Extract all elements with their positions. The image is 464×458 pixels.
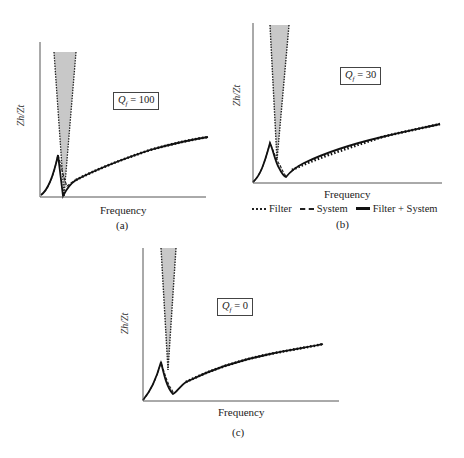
system-overlay [186,344,323,382]
filter-system-curve [143,344,323,400]
legend-item-system: System [300,203,348,214]
panel-b: Zh/Zt Qf = 30 Frequency Filter System Fi… [232,0,464,230]
legend: Filter System Filter + System [252,203,438,214]
system-overlay [292,124,440,170]
x-axis-label: Frequency [100,204,146,216]
y-axis-label: Zh/Zt [119,313,130,335]
system-overlay [76,137,208,180]
legend-item-filter: Filter [252,203,292,214]
solid-line-swatch-icon [356,207,370,210]
x-axis-label: Frequency [324,188,370,200]
q-annotation: Qf = 30 [340,67,381,85]
dotted-line-swatch-icon [252,208,266,210]
panel-c: Zh/Zt Qf = 0 Frequency (c) [120,230,350,458]
q-annotation: Qf = 100 [113,92,159,110]
dashed-line-swatch-icon [300,208,314,210]
panel-caption: (b) [336,218,349,230]
plot-c [120,230,350,458]
panel-caption: (c) [232,426,244,438]
legend-item-filter-system: Filter + System [356,203,438,214]
x-axis-label: Frequency [218,406,264,418]
filter-notch-shade [54,52,76,196]
filter-system-curve [253,124,440,182]
panel-a: Zh/Zt Qf = 100 Frequency (a) [0,0,232,230]
q-annotation: Qf = 0 [217,298,253,316]
y-axis-label: Zh/Zt [231,85,242,107]
plot-a [0,0,232,230]
y-axis-label: Zh/Zt [15,105,26,127]
